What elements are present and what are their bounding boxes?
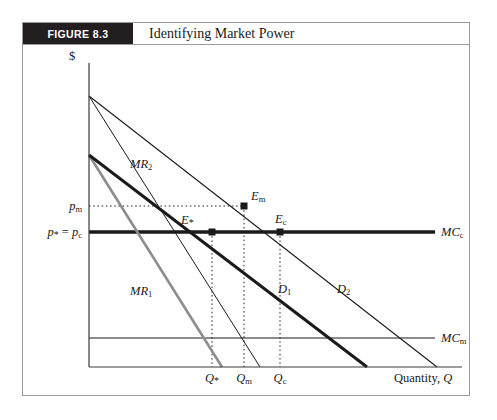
quantity-label-q-c: Qc xyxy=(260,371,300,386)
quantity-label-q-star-sub: * xyxy=(214,375,219,386)
quantity-label-q-c-sub: c xyxy=(283,376,287,386)
quantity-label-q-c-base: Q xyxy=(274,371,283,385)
chart-svg xyxy=(22,45,470,396)
chart-plot-area: $ Quantity, Q pm p* = pc Q* Qm Qc MR2 MR… xyxy=(22,45,470,396)
point-label-e-m: Em xyxy=(251,189,265,204)
curve-label-d2: D2 xyxy=(337,282,350,297)
curve-label-mcm: MCm xyxy=(441,331,466,346)
point-marker-e-m xyxy=(241,203,248,210)
curve-label-d1-base: D xyxy=(278,282,287,296)
quantity-label-q-star-base: Q xyxy=(205,371,214,385)
point-label-e-m-base: E xyxy=(251,189,259,203)
quantity-label-q-m-base: Q xyxy=(236,371,245,385)
x-axis-label: Quantity, Q xyxy=(394,371,452,386)
curve-label-mcc-sub: c xyxy=(460,230,464,240)
figure-header: FIGURE 8.3 Identifying Market Power xyxy=(22,22,470,45)
point-label-e-c-sub: c xyxy=(283,217,287,227)
point-label-e-c: Ec xyxy=(275,212,286,227)
point-marker-e-c xyxy=(277,229,284,236)
quantity-label-q-m-sub: m xyxy=(245,376,252,386)
price-label-pc-sub: c xyxy=(78,230,82,240)
curve-label-mcm-sub: m xyxy=(460,336,467,346)
point-label-e-star-sub: * xyxy=(189,217,194,228)
price-label-pm-sub: m xyxy=(75,204,82,214)
guide-lines xyxy=(89,206,280,367)
point-label-e-m-sub: m xyxy=(259,194,266,204)
x-axis-label-prefix: Quantity, xyxy=(394,371,443,385)
curve-label-mr2: MR2 xyxy=(130,157,152,172)
curve-label-mr1: MR1 xyxy=(130,284,152,299)
price-label-equals: = xyxy=(59,225,72,239)
curve-mr1-line xyxy=(89,155,222,367)
curve-label-d2-base: D xyxy=(337,282,346,296)
curve-label-mr1-base: MR xyxy=(130,284,148,298)
figure-number-badge: FIGURE 8.3 xyxy=(23,23,133,44)
price-label-pm: pm xyxy=(22,199,82,214)
curve-label-d1-sub: 1 xyxy=(287,287,291,297)
curve-d1-line xyxy=(89,155,367,367)
curve-label-d1: D1 xyxy=(278,282,291,297)
quantity-label-q-m: Qm xyxy=(224,371,264,386)
x-axis-label-symbol: Q xyxy=(443,371,452,385)
curve-label-mr2-base: MR xyxy=(130,157,148,171)
curve-label-mcc-base: MC xyxy=(441,225,460,239)
point-label-e-c-base: E xyxy=(275,212,283,226)
y-axis-label: $ xyxy=(69,49,75,64)
curve-label-d2-sub: 2 xyxy=(346,287,350,297)
curve-label-mcc: MCc xyxy=(441,225,464,240)
curve-label-mcm-base: MC xyxy=(441,331,460,345)
figure-title: Identifying Market Power xyxy=(149,23,294,44)
point-marker-e-star xyxy=(209,229,216,236)
curve-label-mr2-sub: 2 xyxy=(148,162,152,172)
curve-label-mr1-sub: 1 xyxy=(148,289,152,299)
point-label-e-star-base: E xyxy=(181,213,189,227)
point-label-e-star: E* xyxy=(181,213,194,228)
figure-container: FIGURE 8.3 Identifying Market Power xyxy=(0,0,497,420)
price-label-p-star-pc: p* = pc xyxy=(22,225,82,240)
